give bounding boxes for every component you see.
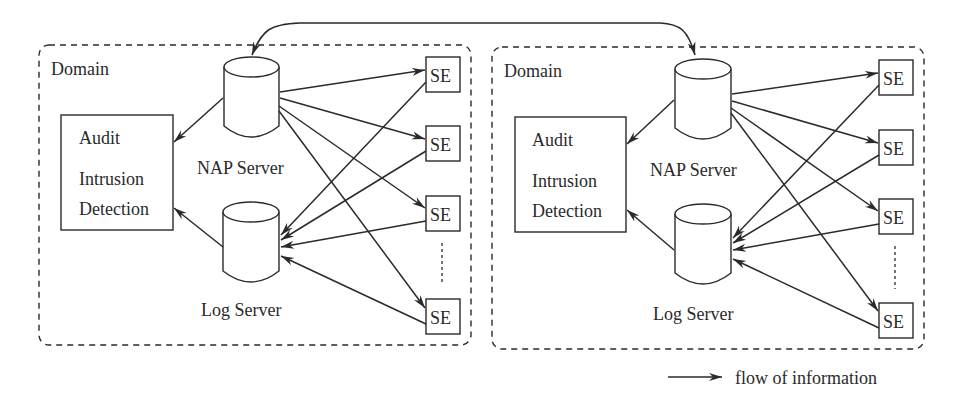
- nap-server-icon: [675, 59, 731, 139]
- log-server-label: Log Server: [201, 300, 281, 320]
- svg-text:SE: SE: [883, 139, 904, 159]
- inter-domain-flow-arrow: [252, 23, 695, 55]
- se-node: SE: [426, 299, 460, 334]
- svg-text:SE: SE: [430, 308, 451, 328]
- se-node: SE: [426, 57, 460, 92]
- se-node: SE: [879, 199, 913, 234]
- intrusion-label: Intrusion: [532, 171, 597, 191]
- intrusion-label: Intrusion: [79, 169, 144, 189]
- legend: flow of information: [668, 368, 877, 388]
- log-server-label: Log Server: [653, 304, 733, 324]
- svg-text:SE: SE: [883, 208, 904, 228]
- domain-right: Domain Audit Intrusion Detection NAP Ser…: [492, 47, 924, 349]
- svg-text:SE: SE: [883, 312, 904, 332]
- detection-label: Detection: [79, 199, 149, 219]
- nap-server-icon: [224, 57, 279, 137]
- svg-text:SE: SE: [430, 135, 451, 155]
- se-node: SE: [879, 130, 913, 165]
- system-diagram: Domain Audit Intrusion Detection NAP Ser…: [0, 0, 962, 405]
- flow-arrows: [174, 70, 426, 324]
- svg-text:SE: SE: [430, 66, 451, 86]
- legend-label: flow of information: [735, 368, 877, 388]
- domain-label: Domain: [504, 61, 562, 81]
- audit-label: Audit: [79, 128, 120, 148]
- detection-label: Detection: [532, 201, 602, 221]
- se-node: SE: [426, 126, 460, 161]
- nap-server-label: NAP Server: [197, 158, 284, 178]
- domain-label: Domain: [51, 59, 109, 79]
- se-node: SE: [426, 196, 460, 231]
- svg-text:SE: SE: [883, 69, 904, 89]
- log-server-icon: [675, 204, 731, 284]
- log-server-icon: [223, 202, 279, 282]
- se-node: SE: [879, 303, 913, 338]
- domain-left: Domain Audit Intrusion Detection NAP Ser…: [39, 45, 471, 345]
- se-node: SE: [879, 60, 913, 95]
- audit-label: Audit: [532, 130, 573, 150]
- svg-text:SE: SE: [430, 205, 451, 225]
- flow-arrows: [627, 73, 879, 328]
- nap-server-label: NAP Server: [650, 160, 737, 180]
